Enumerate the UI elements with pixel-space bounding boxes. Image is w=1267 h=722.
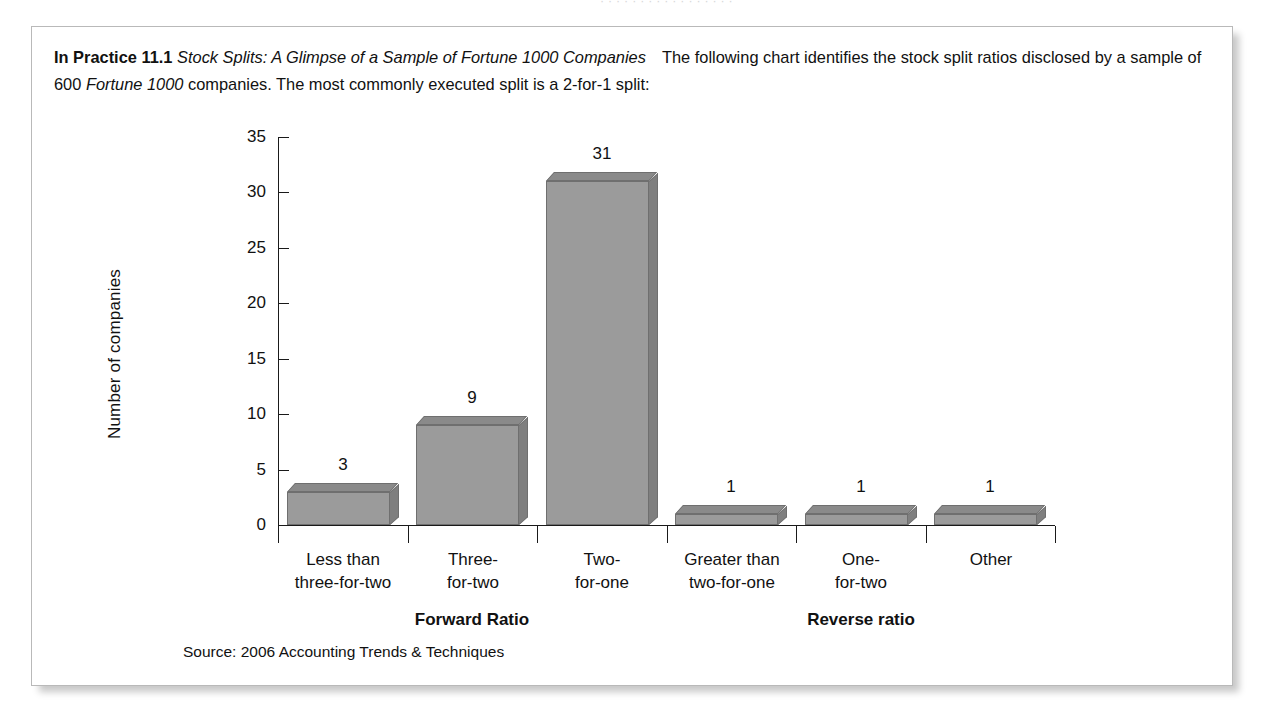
- bar-side-face: [519, 417, 528, 525]
- y-axis-tick-label: 15: [226, 349, 266, 369]
- bar-value-label: 1: [950, 477, 1030, 497]
- page-top-bleed-text: · · · · · · · · · · · · · · · · ·: [600, 0, 1240, 8]
- x-axis-label: Two-for-one: [531, 548, 673, 594]
- y-axis-tick-label: 5: [226, 460, 266, 480]
- x-axis-label-line: for-two: [790, 571, 932, 594]
- x-axis-separator-tick: [408, 526, 409, 543]
- y-axis-tick: [279, 248, 289, 249]
- bar[interactable]: [416, 416, 519, 525]
- y-axis-tick: [279, 137, 289, 138]
- bar[interactable]: [805, 505, 908, 525]
- bar-value-label: 31: [562, 144, 642, 164]
- y-axis-line: [278, 137, 279, 526]
- y-axis-tick: [279, 359, 289, 360]
- x-axis-separator-tick: [1055, 526, 1056, 543]
- bar-value-label: 3: [303, 455, 383, 475]
- x-axis-label-line: Less than: [272, 548, 414, 571]
- bar-top-face: [805, 505, 916, 514]
- bar-top-face: [934, 505, 1045, 514]
- bar-front-face: [416, 425, 519, 525]
- y-axis-tick-label: 10: [226, 404, 266, 424]
- x-axis-label-line: One-: [790, 548, 932, 571]
- y-axis-tick-label: 25: [226, 238, 266, 258]
- x-axis-label: One-for-two: [790, 548, 932, 594]
- bar-top-face: [546, 172, 657, 181]
- chart-source-note: Source: 2006 Accounting Trends & Techniq…: [183, 643, 504, 661]
- x-axis-label-line: Two-: [531, 548, 673, 571]
- bar-front-face: [287, 492, 390, 525]
- x-axis-separator-tick: [278, 526, 279, 543]
- bar-value-label: 9: [432, 388, 512, 408]
- y-axis-tick-label: 0: [226, 515, 266, 535]
- x-axis-label-line: Greater than: [661, 548, 803, 571]
- bar-value-label: 1: [691, 477, 771, 497]
- bar-front-face: [546, 181, 649, 525]
- y-axis-tick: [279, 414, 289, 415]
- bar-front-face: [675, 514, 778, 525]
- x-axis-separator-tick: [926, 526, 927, 543]
- x-axis-group-label: Reverse ratio: [741, 610, 981, 630]
- y-axis-tick-label: 20: [226, 293, 266, 313]
- x-axis-label-line: for-two: [402, 571, 544, 594]
- x-axis-label: Greater thantwo-for-one: [661, 548, 803, 594]
- bar-front-face: [934, 514, 1037, 525]
- x-axis-separator-tick: [537, 526, 538, 543]
- y-axis-tick: [279, 192, 289, 193]
- in-practice-box: In Practice 11.1 Stock Splits: A Glimpse…: [31, 26, 1233, 686]
- y-axis-tick: [279, 303, 289, 304]
- x-axis-label-line: two-for-one: [661, 571, 803, 594]
- y-axis-tick-label: 35: [226, 127, 266, 147]
- bar-value-label: 1: [821, 477, 901, 497]
- bar[interactable]: [934, 505, 1037, 525]
- x-axis-separator-tick: [796, 526, 797, 543]
- bar[interactable]: [546, 172, 649, 525]
- x-axis-label-line: Other: [920, 548, 1062, 571]
- bar[interactable]: [287, 483, 390, 525]
- x-axis-label: Other: [920, 548, 1062, 571]
- y-axis-tick-label: 30: [226, 182, 266, 202]
- bar[interactable]: [675, 505, 778, 525]
- y-axis-tick: [279, 525, 289, 526]
- x-axis-label: Three-for-two: [402, 548, 544, 594]
- bar-top-face: [675, 505, 786, 514]
- x-axis-label-line: Three-: [402, 548, 544, 571]
- y-axis-tick: [279, 470, 289, 471]
- bar-top-face: [287, 483, 398, 492]
- x-axis-label: Less thanthree-for-two: [272, 548, 414, 594]
- x-axis-label-line: three-for-two: [272, 571, 414, 594]
- bar-front-face: [805, 514, 908, 525]
- x-axis-group-label: Forward Ratio: [352, 610, 592, 630]
- y-axis-title: Number of companies: [105, 194, 125, 514]
- x-axis-label-line: for-one: [531, 571, 673, 594]
- bar-top-face: [416, 416, 527, 425]
- stock-splits-bar-chart: Number of companies 05101520253035 39311…: [32, 27, 1234, 687]
- bar-side-face: [649, 173, 658, 525]
- x-axis-separator-tick: [667, 526, 668, 543]
